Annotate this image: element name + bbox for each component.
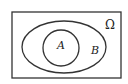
venn-diagram: A B Ω — [0, 0, 128, 84]
universe-label: Ω — [105, 18, 115, 32]
set-b-label: B — [90, 44, 99, 57]
set-a-label: A — [56, 39, 65, 52]
